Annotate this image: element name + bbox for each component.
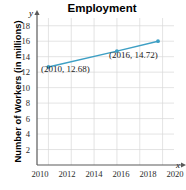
data-point-annotation: (2016, 14.72): [109, 50, 158, 60]
axis-lines: [34, 10, 186, 168]
data-point-annotation: (2010, 12.68): [41, 64, 90, 74]
gridlines: [37, 18, 174, 165]
plot-area: [0, 0, 186, 190]
chart-figure: Employment Number of Workers (in million…: [0, 0, 186, 190]
